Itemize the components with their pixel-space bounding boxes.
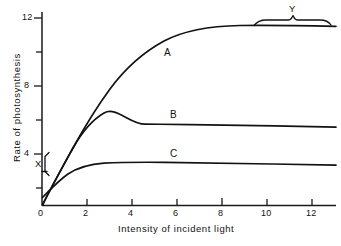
x-tick-label-6: 6 — [173, 209, 178, 218]
curve-label-c: C — [170, 149, 178, 159]
x-axis-title: Intensity of incident light — [118, 224, 234, 234]
x-tick-label-8: 8 — [218, 209, 223, 218]
y-tick-label-8: 8 — [24, 81, 29, 90]
y-tick-label-12: 12 — [22, 13, 32, 22]
curve-c — [43, 162, 337, 197]
annotation-label-x: X — [35, 159, 42, 169]
x-tick-label-4: 4 — [128, 209, 133, 218]
y-tick-label-4: 4 — [24, 149, 29, 158]
y-axis-title: Rate of photosynthesis — [12, 53, 22, 162]
annotation-label-y: Y — [289, 4, 296, 14]
x-tick-label-2: 2 — [83, 209, 88, 218]
curve-a — [43, 25, 337, 205]
x-tick-label-12: 12 — [306, 209, 316, 218]
curve-label-a: A — [164, 48, 171, 58]
x-tick-label-10: 10 — [261, 209, 271, 218]
x-tick-label-0: 0 — [38, 209, 43, 218]
x-annotation-bracket — [42, 153, 49, 176]
axis-lines — [42, 12, 336, 206]
curve-label-b: B — [170, 110, 177, 120]
y-annotation-brace — [254, 16, 331, 26]
x-axis-ticks — [87, 198, 312, 206]
photosynthesis-light-response-chart: 12 8 4 0 2 4 6 8 10 12 A B C X Y Intensi… — [0, 0, 341, 246]
chart-plot-area — [0, 0, 341, 246]
